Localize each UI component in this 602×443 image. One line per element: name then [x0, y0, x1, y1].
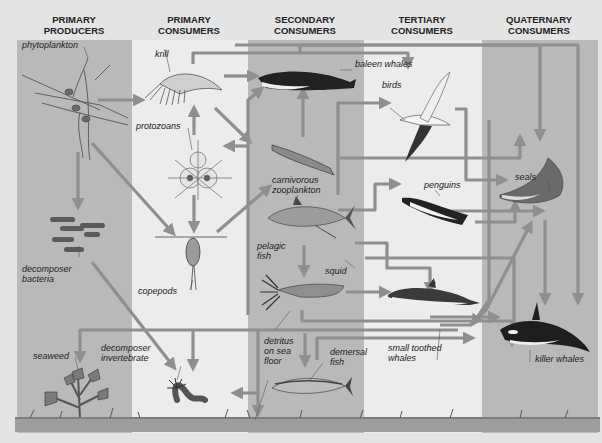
label-baleen-whales: baleen whales: [355, 59, 413, 69]
copepods-drawing: [155, 237, 227, 290]
label-demersal-fish: demersal fish: [330, 347, 367, 367]
label-seaweed: seaweed: [33, 351, 69, 361]
bird-drawing: [400, 72, 450, 162]
baleen-whale-drawing: [258, 72, 356, 91]
label-carnivorous-zooplankton: carnivorous zooplankton: [272, 175, 321, 195]
label-line: detritus: [264, 336, 294, 346]
label-line: decomposer: [101, 343, 151, 353]
label-line: fish: [257, 251, 286, 261]
label-line: whales: [388, 353, 442, 363]
label-protozoans: protozoans: [136, 121, 181, 131]
food-web-diagram: [0, 0, 602, 443]
label-squid: squid: [325, 266, 347, 276]
protozoans-drawing: [168, 140, 232, 200]
label-line: small toothed: [388, 343, 442, 353]
label-decomposer-bacteria: decomposer bacteria: [22, 264, 72, 284]
label-krill: krill: [155, 49, 169, 59]
arrow: [440, 225, 530, 325]
label-line: zooplankton: [272, 185, 321, 195]
label-detritus: detritus on sea floor: [264, 336, 294, 366]
label-line: on sea: [264, 346, 294, 356]
label-penguins: penguins: [424, 180, 461, 190]
label-pelagic-fish: pelagic fish: [257, 241, 286, 261]
label-copepods: copepods: [138, 286, 177, 296]
label-decomposer-invertebrate: decomposer invertebrate: [101, 343, 151, 363]
krill-drawing: [145, 74, 222, 105]
demersal-fish-drawing: [272, 377, 353, 396]
arrow: [355, 243, 430, 289]
arrow: [217, 188, 268, 232]
label-line: decomposer: [22, 264, 72, 274]
label-line: pelagic: [257, 241, 286, 251]
arrow: [338, 184, 396, 210]
label-line: floor: [264, 356, 294, 366]
label-killer-whales: killer whales: [535, 354, 584, 364]
worm-drawing: [167, 378, 205, 400]
seaweed-drawing: [45, 368, 108, 418]
sea-floor: [15, 408, 600, 432]
label-line: bacteria: [22, 274, 72, 284]
arrow: [340, 139, 520, 158]
arrow: [215, 108, 248, 140]
label-phytoplankton: phytoplankton: [22, 40, 78, 50]
label-birds: birds: [382, 80, 402, 90]
arrow: [92, 143, 172, 232]
squid-drawing: [260, 275, 344, 310]
carnivorous-zooplankton-drawing: [272, 145, 334, 175]
pelagic-fish-drawing: [268, 196, 356, 238]
label-line: fish: [330, 357, 367, 367]
label-seals: seals: [515, 172, 536, 182]
dolphin-drawing: [388, 278, 480, 306]
phytoplankton-drawing: [22, 58, 128, 160]
label-line: carnivorous: [272, 175, 321, 185]
label-small-toothed-whales: small toothed whales: [388, 343, 442, 363]
arrow: [338, 103, 386, 195]
arrow: [475, 205, 515, 222]
arrow: [455, 109, 503, 180]
label-line: invertebrate: [101, 353, 151, 363]
label-line: demersal: [330, 347, 367, 357]
bacteria-drawing: [50, 217, 105, 252]
